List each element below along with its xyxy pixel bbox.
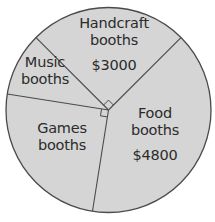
handcraft-slice-label: Handcraft booths $3000 bbox=[79, 15, 149, 74]
games-label-line1: Games bbox=[37, 120, 87, 136]
food-label-line1: Food bbox=[138, 105, 172, 121]
games-label-line2: booths bbox=[38, 137, 86, 153]
music-label-line1: Music bbox=[25, 54, 65, 70]
handcraft-value: $3000 bbox=[79, 57, 149, 74]
handcraft-label-line2: booths bbox=[90, 32, 138, 48]
handcraft-label-line1: Handcraft bbox=[79, 15, 149, 31]
music-slice-label: Music booths bbox=[21, 54, 69, 88]
food-value: $4800 bbox=[131, 147, 179, 164]
food-label-line2: booths bbox=[131, 122, 179, 138]
games-slice-label: Games booths bbox=[37, 120, 87, 154]
food-slice-label: Food booths $4800 bbox=[131, 105, 179, 164]
music-label-line2: booths bbox=[21, 71, 69, 87]
